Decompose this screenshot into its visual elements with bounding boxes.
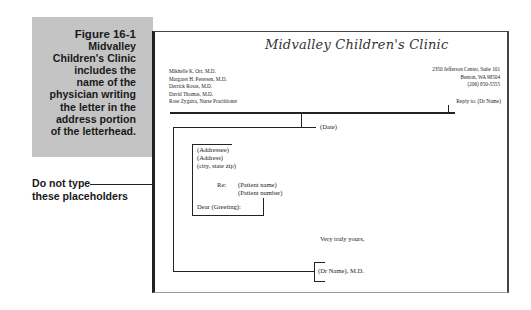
address-line: 2350 Jefferson Center, Suite 101 xyxy=(432,66,500,74)
greeting-placeholder: Dear (Greeting): xyxy=(197,203,241,212)
address-line: (206) 850-5555 xyxy=(432,81,500,89)
addressee-bracket-left xyxy=(192,144,193,216)
staff-list: Mikhelle K. Orr, M.D. Margaret H. Peters… xyxy=(169,68,237,106)
date-leader-line xyxy=(173,127,316,128)
patient-number-placeholder: (Patient number) xyxy=(238,189,283,198)
caption-line: of the letterhead. xyxy=(34,125,136,137)
caption-line: Children's Clinic xyxy=(34,52,136,64)
reply-tick xyxy=(448,105,449,113)
reply-to: Reply to: (Dr Name) xyxy=(456,98,501,104)
signature-leader-line xyxy=(173,271,315,272)
signature-placeholder: (Dr Name), M.D. xyxy=(318,267,364,276)
caption-line: name of the xyxy=(34,76,136,88)
caption-line: physician writing xyxy=(34,88,136,100)
figure-caption: Figure 16-1 Midvalley Children's Clinic … xyxy=(34,28,136,137)
address-line: Benton, WA 98504 xyxy=(432,74,500,82)
signature-bracket-top xyxy=(314,262,325,263)
caption-line: the letter in the xyxy=(34,101,136,113)
connector-vertical xyxy=(301,112,302,128)
closing: Very truly yours, xyxy=(320,235,365,244)
staff-member: Margaret H. Petersen, M.D. xyxy=(169,76,237,84)
placeholder-bracket-vertical xyxy=(173,127,174,272)
clinic-name: Midvalley Children's Clinic xyxy=(265,37,448,52)
date-placeholder: (Date) xyxy=(320,123,337,132)
clinic-address: 2350 Jefferson Center, Suite 101 Benton,… xyxy=(432,66,500,89)
note-line-2: these placeholders xyxy=(32,190,128,203)
city-state-zip-placeholder: (city, state zip) xyxy=(197,162,236,171)
re-label: Re: xyxy=(217,181,226,190)
caption-line: Midvalley xyxy=(34,40,136,52)
staff-member: David Thomas, M.D. xyxy=(169,91,237,99)
letterhead-rule xyxy=(170,112,455,114)
signature-bracket-bottom xyxy=(314,281,325,282)
caption-line: address portion xyxy=(34,113,136,125)
addressee-bracket-right xyxy=(263,198,264,216)
staff-member: Rose Zygaira, Nurse Practitioner xyxy=(169,98,237,106)
placeholder-note: Do not type these placeholders xyxy=(32,177,128,202)
staff-member: Derrick Rosas, M.D. xyxy=(169,83,237,91)
addressee-bracket-bottom xyxy=(192,215,264,216)
caption-line: includes the xyxy=(34,64,136,76)
signature-bracket-left xyxy=(314,262,315,282)
addressee-bracket-top xyxy=(192,144,232,145)
figure-title: Figure 16-1 xyxy=(34,28,136,40)
staff-member: Mikhelle K. Orr, M.D. xyxy=(169,68,237,76)
